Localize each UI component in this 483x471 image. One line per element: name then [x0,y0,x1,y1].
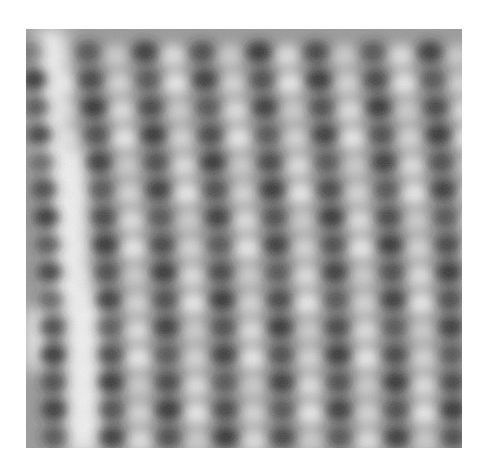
lattice-canvas [26,29,462,448]
lattice-micrograph [26,29,462,448]
scan-noise [26,29,462,448]
